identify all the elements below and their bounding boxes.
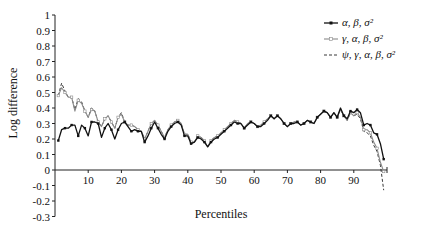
x-tick-label: 60 xyxy=(249,174,261,186)
legend-item-3: ψ, γ, α, β, σ² xyxy=(324,48,396,60)
x-tick-label: 90 xyxy=(348,174,360,186)
y-tick-label: 0.7 xyxy=(36,56,50,68)
y-tick-label: -0.2 xyxy=(33,195,50,207)
x-tick-label: 70 xyxy=(282,174,294,186)
y-tick-label: 0.5 xyxy=(36,87,50,99)
y-tick-label: -0.3 xyxy=(33,211,51,223)
y-tick-label: 0.6 xyxy=(36,71,50,83)
y-tick-label: 0.4 xyxy=(36,102,50,114)
x-tick-label: 80 xyxy=(315,174,327,186)
y-tick-label: 1 xyxy=(45,9,51,21)
legend: α, β, σ²γ, α, β, σ²ψ, γ, α, β, σ² xyxy=(324,16,396,60)
x-tick-label: 10 xyxy=(83,174,95,186)
y-tick-label: 0.1 xyxy=(36,149,50,161)
y-axis: 10.90.80.70.60.50.40.30.20.10-0.1-0.2-0.… xyxy=(33,9,55,223)
y-tick-label: 0.9 xyxy=(36,25,50,37)
legend-item-1: α, β, σ² xyxy=(324,16,374,28)
legend-label: ψ, γ, α, β, σ² xyxy=(342,48,396,60)
legend-label: γ, α, β, σ² xyxy=(342,32,384,44)
series-2 xyxy=(57,88,385,173)
legend-item-2: γ, α, β, σ² xyxy=(324,32,384,44)
y-axis-title: Log difference xyxy=(6,68,20,139)
x-tick-label: 40 xyxy=(182,174,194,186)
x-axis-title: Percentiles xyxy=(195,207,248,221)
x-tick-label: 30 xyxy=(149,174,161,186)
y-tick-label: 0.3 xyxy=(36,118,50,130)
y-tick-label: 0.2 xyxy=(36,133,50,145)
series-1 xyxy=(57,108,385,160)
y-tick-label: 0.8 xyxy=(36,40,50,52)
line-chart: 10.90.80.70.60.50.40.30.20.10-0.1-0.2-0.… xyxy=(0,0,431,232)
y-tick-label: 0 xyxy=(45,164,51,176)
x-tick-label: 20 xyxy=(116,174,128,186)
legend-label: α, β, σ² xyxy=(342,16,374,28)
x-tick-label: 50 xyxy=(216,174,228,186)
x-axis: 102030405060708090 xyxy=(55,167,387,186)
y-tick-label: -0.1 xyxy=(33,180,50,192)
